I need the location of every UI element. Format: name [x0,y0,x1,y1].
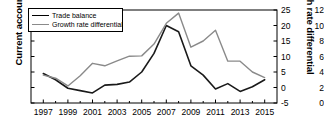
legend-swatch-trade-balance [32,15,49,16]
legend-item-growth-rate-differential: Growth rate differential [32,20,123,29]
chart-legend: Trade balance Growth rate differential [28,8,123,32]
legend-label-trade-balance: Trade balance [52,12,97,19]
series-line-trade-balance [43,26,264,93]
legend-item-trade-balance: Trade balance [32,11,97,20]
legend-label-growth-rate-differential: Growth rate differential [52,21,123,28]
legend-swatch-growth-rate-differential [32,24,49,25]
chart-figure: Current account Growth rate differential… [0,0,324,126]
